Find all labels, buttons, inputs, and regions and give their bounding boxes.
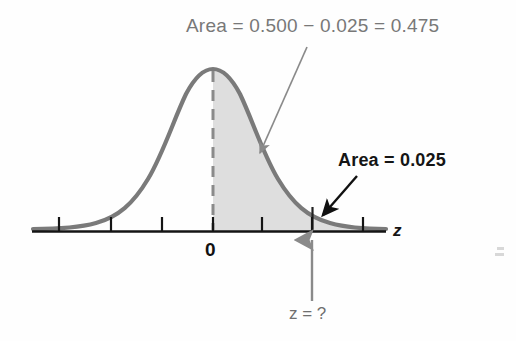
- area-right-leader-arrow: [323, 176, 357, 215]
- center-tick-label: 0: [205, 240, 216, 259]
- area-main-label: Area = 0.500 − 0.025 = 0.475: [186, 16, 439, 35]
- tail-shaded-area: [33, 70, 386, 231]
- unknown-z-label: z = ?: [289, 305, 326, 322]
- scan-artifact-speck: [497, 247, 504, 250]
- main-shaded-area: [33, 70, 386, 231]
- normal-distribution-figure: Area = 0.500 − 0.025 = 0.475 Area = 0.02…: [0, 0, 516, 341]
- axis-label-z: z: [393, 222, 402, 239]
- area-tail-label: Area = 0.025: [338, 151, 446, 169]
- area-left-leader-arrow: [260, 47, 307, 153]
- distribution-plot: [0, 0, 516, 341]
- scan-artifact-speck: [495, 253, 504, 256]
